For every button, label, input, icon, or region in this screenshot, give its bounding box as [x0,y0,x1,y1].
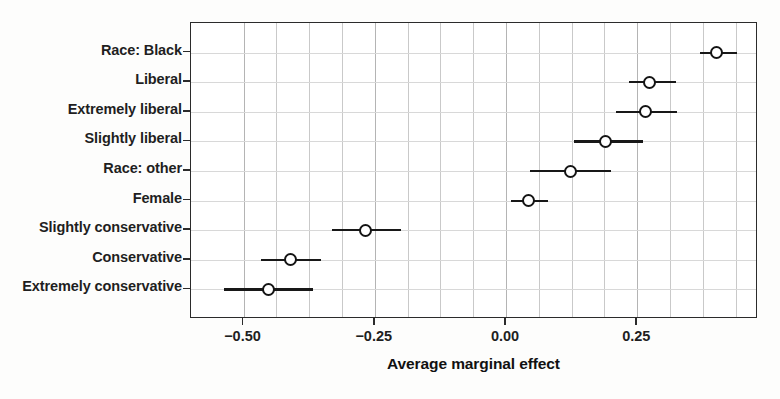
y-axis-tick [183,258,190,260]
y-axis-label-extremely-liberal: Extremely liberal [0,101,182,117]
estimate-row[interactable] [191,190,756,212]
point-marker[interactable] [262,283,275,296]
estimate-row[interactable] [191,101,756,123]
estimate-row[interactable] [191,219,756,241]
point-marker[interactable] [522,194,535,207]
x-axis-title: Average marginal effect [190,355,757,373]
y-axis-label-female: Female [0,190,182,206]
y-axis-label-race-other: Race: other [0,160,182,176]
y-axis-tick [183,199,190,201]
x-axis-tick-label: −0.25 [334,328,414,344]
y-axis-tick [183,169,190,171]
marginal-effects-coefficient-plot: Race: BlackLiberalExtremely liberalSligh… [0,0,780,399]
point-marker[interactable] [284,253,297,266]
x-axis-tick [635,318,637,325]
y-axis-label-extremely-conservative: Extremely conservative [0,278,182,294]
y-axis-tick [183,51,190,53]
estimate-row[interactable] [191,278,756,300]
y-axis-tick [183,110,190,112]
y-axis-label-slightly-conservative: Slightly conservative [0,219,182,235]
y-axis-tick [183,80,190,82]
y-axis-tick [183,228,190,230]
y-axis-label-conservative: Conservative [0,249,182,265]
estimate-row[interactable] [191,71,756,93]
x-axis-tick [504,318,506,325]
point-marker[interactable] [710,46,723,59]
estimate-row[interactable] [191,130,756,152]
estimate-row[interactable] [191,42,756,64]
point-marker[interactable] [599,135,612,148]
point-marker[interactable] [643,76,656,89]
point-marker[interactable] [639,105,652,118]
y-axis-label-liberal: Liberal [0,71,182,87]
x-axis-tick-label: 0.25 [596,328,676,344]
estimate-row[interactable] [191,160,756,182]
plot-panel [190,22,757,318]
estimate-row[interactable] [191,249,756,271]
y-axis-tick [183,288,190,290]
y-axis-label-race-black: Race: Black [0,42,182,58]
x-axis-tick-label: −0.50 [203,328,283,344]
point-marker[interactable] [564,165,577,178]
y-axis-tick [183,140,190,142]
x-axis-tick [242,318,244,325]
y-axis-label-slightly-liberal: Slightly liberal [0,130,182,146]
x-axis-tick-label: 0.00 [465,328,545,344]
x-axis-tick [373,318,375,325]
point-marker[interactable] [359,224,372,237]
